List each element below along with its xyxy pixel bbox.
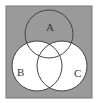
label-a: A [46,21,54,33]
venn-diagram: A B C [0,0,97,103]
label-b: B [17,66,24,78]
label-c: C [74,67,81,79]
